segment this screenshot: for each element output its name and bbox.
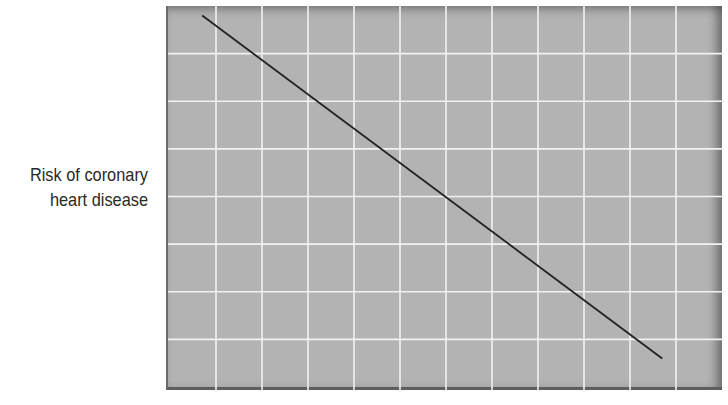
y-axis-label-line-2: heart disease [21, 187, 148, 212]
trend-line [202, 16, 662, 359]
y-axis-label: Risk of coronary heart disease [21, 162, 148, 212]
plot-area [166, 6, 722, 390]
chart-canvas [168, 6, 724, 390]
y-axis-label-line-1: Risk of coronary [21, 162, 148, 187]
